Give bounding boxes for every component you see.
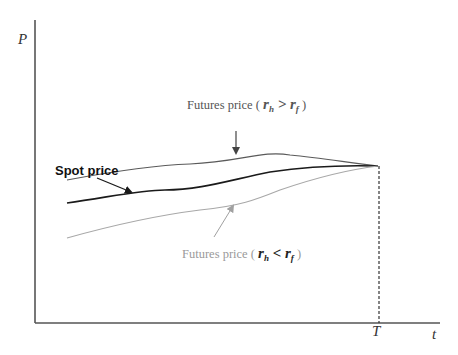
spot-arrow bbox=[97, 178, 131, 192]
r-h-symbol: rh bbox=[263, 96, 274, 112]
r-f-symbol: rf bbox=[285, 245, 294, 261]
r-h-symbol: rh bbox=[258, 245, 269, 261]
y-axis-label: P bbox=[18, 31, 27, 48]
futures-upper-suffix: ) bbox=[299, 98, 306, 112]
futures-lower-prefix: Futures price ( bbox=[182, 247, 258, 261]
futures-lower-label: Futures price ( rh < rf ) bbox=[182, 245, 301, 263]
maturity-label: T bbox=[372, 323, 380, 340]
x-axis-label: t bbox=[432, 326, 436, 343]
r-f-symbol: rf bbox=[290, 96, 299, 112]
less-than-operator: < bbox=[269, 245, 285, 261]
spot-price-label: Spot price bbox=[55, 163, 119, 178]
futures-upper-label: Futures price ( rh > rf ) bbox=[187, 96, 306, 114]
futures-upper-prefix: Futures price ( bbox=[187, 98, 263, 112]
futures-spot-convergence-diagram: P t T Spot price Futures price ( rh > rf… bbox=[0, 0, 458, 355]
greater-than-operator: > bbox=[274, 96, 290, 112]
futures-lower-arrow bbox=[214, 206, 233, 237]
futures-lower-suffix: ) bbox=[294, 247, 301, 261]
